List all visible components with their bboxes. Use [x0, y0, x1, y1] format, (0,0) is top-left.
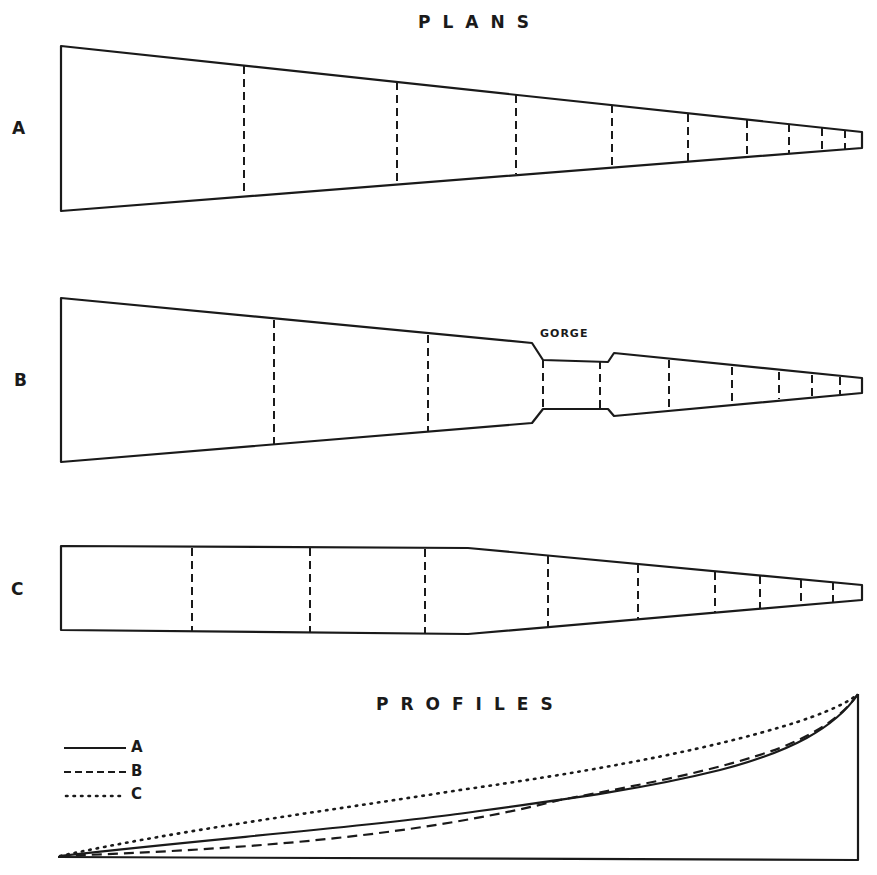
profile-b-curve: [60, 694, 858, 856]
profiles-frame: [58, 694, 858, 860]
plan-a-shape: [61, 46, 862, 211]
profile-c-curve: [60, 694, 858, 856]
plan-b-shape: [61, 298, 862, 462]
profile-a-curve: [60, 694, 858, 856]
plan-c-shape: [61, 546, 862, 634]
diagram-canvas: [0, 0, 877, 875]
